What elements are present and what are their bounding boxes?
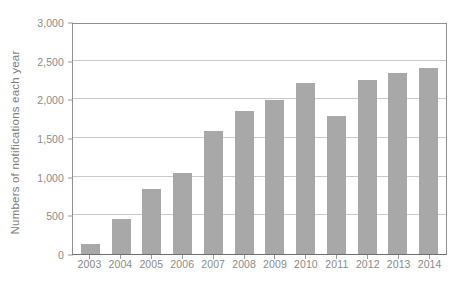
- bar-slot: [290, 24, 321, 254]
- x-axis-tick-label: 2014: [414, 258, 445, 278]
- y-axis-tick-label: 0: [58, 249, 64, 261]
- x-axis-tick-label: 2010: [290, 258, 321, 278]
- bar-slot: [198, 24, 229, 254]
- y-axis-tick-labels: 05001,0001,5002,0002,5003,000: [28, 23, 68, 255]
- bar: [388, 73, 407, 254]
- x-axis-tick-label: 2007: [198, 258, 229, 278]
- x-axis-tick-label: 2003: [74, 258, 105, 278]
- x-axis-tick-label: 2012: [352, 258, 383, 278]
- y-axis-tick-label: 2,500: [37, 56, 64, 68]
- x-axis-tick-label: 2011: [321, 258, 352, 278]
- y-axis-tick-label: 500: [46, 210, 64, 222]
- bar: [327, 116, 346, 254]
- bar: [265, 100, 284, 254]
- x-axis-tick-label: 2009: [260, 258, 291, 278]
- x-axis-tick-label: 2004: [105, 258, 136, 278]
- y-axis-tick-label: 1,500: [37, 133, 64, 145]
- bar-slot: [383, 24, 414, 254]
- y-axis-tick-label: 1,000: [37, 172, 64, 184]
- bar-slot: [321, 24, 352, 254]
- bar-slot: [167, 24, 198, 254]
- bar-slot: [229, 24, 260, 254]
- bar: [296, 83, 315, 254]
- bar-slot: [75, 24, 106, 254]
- bar: [112, 219, 131, 254]
- bar-slot: [352, 24, 383, 254]
- bar-slot: [106, 24, 137, 254]
- bar: [419, 68, 438, 254]
- y-axis-tick-label: 2,000: [37, 94, 64, 106]
- plot-area: [72, 23, 447, 255]
- bar: [142, 189, 161, 254]
- x-axis-tick-labels: 2003200420052006200720082009201020112012…: [72, 258, 447, 278]
- y-axis-tick-label: 3,000: [37, 17, 64, 29]
- bar: [358, 80, 377, 254]
- bar-slot: [413, 24, 444, 254]
- bar: [204, 131, 223, 254]
- x-axis-tick-label: 2005: [136, 258, 167, 278]
- bar-slot: [137, 24, 168, 254]
- x-axis-tick-label: 2006: [167, 258, 198, 278]
- x-axis-tick-label: 2013: [383, 258, 414, 278]
- bar: [81, 244, 100, 254]
- bar: [235, 111, 254, 254]
- x-axis-tick-label: 2008: [229, 258, 260, 278]
- bar-chart: Numbers of notifications each year 05001…: [0, 0, 469, 285]
- y-axis-title: Numbers of notifications each year: [0, 0, 30, 285]
- bar: [173, 173, 192, 254]
- bar-slot: [260, 24, 291, 254]
- bar-series: [73, 24, 446, 254]
